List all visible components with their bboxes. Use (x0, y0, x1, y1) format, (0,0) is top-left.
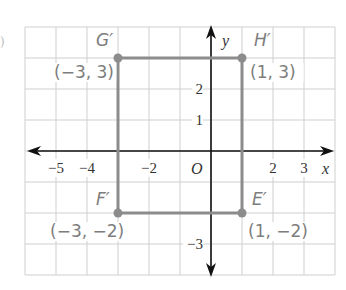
x-tick-label: 3 (300, 160, 308, 176)
vertex-point (114, 209, 123, 218)
vertex-point (238, 54, 247, 63)
x-tick-label: −5 (48, 160, 64, 176)
vertex-coordinates: (1, 3) (250, 62, 296, 82)
vertex-name: H′ (254, 30, 271, 50)
origin-label: O (191, 160, 203, 177)
vertex-name: E′ (252, 189, 267, 209)
coordinate-plane-figure: ) −5−4−22321−3 G′(−3, 3)H′(1, 3)E′(1, −2… (0, 0, 346, 290)
x-tick-label: −4 (79, 160, 95, 176)
vertex-coordinates: (1, −2) (248, 221, 308, 241)
y-tick-label: 2 (196, 81, 204, 97)
vertex-coordinates: (−3, 3) (54, 62, 114, 82)
x-axis-label: x (321, 160, 329, 177)
y-tick-label: −3 (187, 236, 203, 252)
vertex-point (114, 54, 123, 63)
vertex-name: F′ (96, 189, 110, 209)
vertex-coordinates: (−3, −2) (50, 221, 124, 241)
vertex-point (238, 209, 247, 218)
vertex-name: G′ (96, 30, 113, 50)
margin-mark: ) (0, 35, 5, 49)
x-tick-label: 2 (269, 160, 277, 176)
x-tick-label: −2 (141, 160, 157, 176)
y-tick-label: 1 (196, 112, 204, 128)
y-axis-label: y (220, 32, 230, 50)
